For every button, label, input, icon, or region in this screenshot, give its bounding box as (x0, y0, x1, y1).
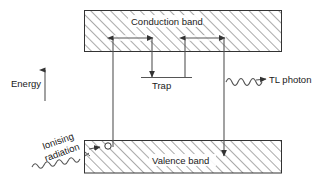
diagram-canvas: Conduction band Valence band Trap TL pho… (0, 0, 322, 191)
tl-photon-wavy-arrow (226, 79, 266, 86)
hole-circle-marker (105, 143, 111, 149)
energy-axis-label: Energy (11, 79, 41, 89)
valence-band-label: Valence band (152, 156, 209, 166)
conduction-band-label: Conduction band (131, 17, 203, 27)
tl-photon-label: TL photon (269, 75, 311, 85)
trap-label: Trap (152, 81, 171, 91)
